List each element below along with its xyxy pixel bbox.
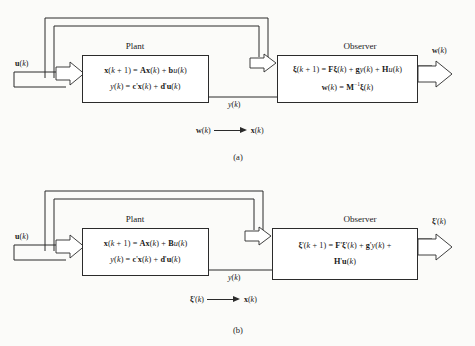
mapping-arrow-b-icon [207,296,241,303]
panel-caption-a: (a) [218,152,258,162]
plant-equation-b-1: x(k + 1) = Ax(k) + Bu(k) [104,240,188,249]
mapping-note-b-from: ξ'(k) [190,295,204,304]
panel-caption-b: (b) [218,325,258,335]
observer-block-b: ξ'(k + 1) = F'ξ'(k) + g'y(k) + H'u(k) [272,228,418,280]
plant-title-b: Plant [95,214,175,224]
block-diagram-panel-a: Plant x(k + 1) = Ax(k) + bu(k) y(k) = c'… [0,0,475,173]
output-label-a: w(k) [432,46,447,55]
input-label-b: u(k) [15,232,28,241]
plant-block-b: x(k + 1) = Ax(k) + Bu(k) y(k) = c'x(k) +… [82,228,209,276]
output-label-b: ξ'(k) [432,217,446,226]
plant-block-a: x(k + 1) = Ax(k) + bu(k) y(k) = c'x(k) +… [82,55,209,103]
plant-equation-a-1: x(k + 1) = Ax(k) + bu(k) [104,67,187,76]
middle-signal-label-b: y(k) [228,273,240,282]
plant-title-a: Plant [95,41,175,51]
observer-title-a: Observer [320,41,400,51]
observer-equation-a-2: w(k) = M−1ξ(k) [322,82,374,92]
mapping-note-b-to: x(k) [244,295,257,304]
mapping-note-b: ξ'(k) x(k) [190,295,257,304]
observer-title-b: Observer [320,214,400,224]
mapping-arrow-a-icon [214,127,248,134]
mapping-note-a-from: w(k) [196,126,211,135]
mapping-note-a: w(k) x(k) [196,126,264,135]
plant-equation-b-2: y(k) = c'x(k) + d'u(k) [110,256,180,265]
mapping-note-a-to: x(k) [251,126,264,135]
figure-canvas: Plant x(k + 1) = Ax(k) + bu(k) y(k) = c'… [0,0,475,346]
input-label-a: u(k) [15,59,28,68]
observer-equation-a-1: ξ(k + 1) = Fξ(k) + gy(k) + Hu(k) [293,66,402,75]
middle-signal-label-a: y(k) [228,100,240,109]
observer-equation-b-2: H'u(k) [334,258,356,267]
observer-equation-b-1: ξ'(k + 1) = F'ξ'(k) + g'y(k) + [298,242,391,251]
observer-block-a: ξ(k + 1) = Fξ(k) + gy(k) + Hu(k) w(k) = … [277,55,418,103]
plant-equation-a-2: y(k) = c'x(k) + d'u(k) [110,83,180,92]
block-diagram-panel-b: Plant x(k + 1) = Ax(k) + Bu(k) y(k) = c'… [0,173,475,346]
